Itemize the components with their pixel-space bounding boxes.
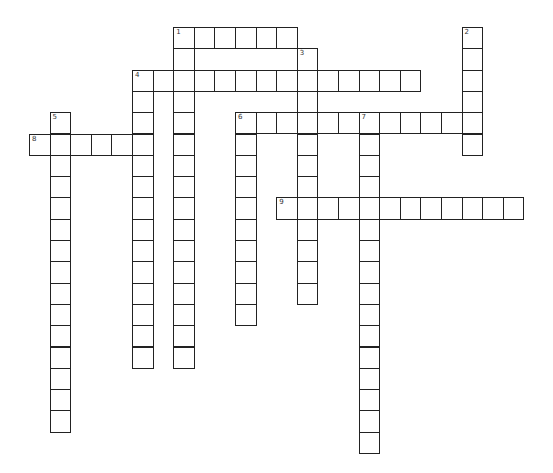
- crossword-cell[interactable]: [173, 283, 195, 305]
- crossword-cell[interactable]: [359, 155, 381, 177]
- crossword-cell[interactable]: [297, 283, 319, 305]
- crossword-cell[interactable]: [173, 261, 195, 283]
- crossword-cell[interactable]: [50, 261, 72, 283]
- crossword-cell[interactable]: [441, 112, 463, 134]
- crossword-cell[interactable]: 3: [297, 48, 319, 70]
- crossword-cell[interactable]: [297, 155, 319, 177]
- crossword-cell[interactable]: [359, 347, 381, 369]
- crossword-cell[interactable]: [132, 240, 154, 262]
- crossword-cell[interactable]: [338, 70, 360, 92]
- crossword-cell[interactable]: [317, 197, 339, 219]
- crossword-cell[interactable]: [173, 219, 195, 241]
- crossword-cell[interactable]: [235, 70, 257, 92]
- crossword-cell[interactable]: [132, 304, 154, 326]
- crossword-cell[interactable]: [359, 432, 381, 454]
- crossword-cell[interactable]: [194, 27, 216, 49]
- crossword-cell[interactable]: [235, 283, 257, 305]
- crossword-cell[interactable]: [359, 70, 381, 92]
- crossword-cell[interactable]: [359, 325, 381, 347]
- crossword-cell[interactable]: [297, 112, 319, 134]
- crossword-cell[interactable]: [214, 27, 236, 49]
- crossword-cell[interactable]: [256, 27, 278, 49]
- crossword-cell[interactable]: [400, 70, 422, 92]
- crossword-cell[interactable]: [276, 27, 298, 49]
- crossword-cell[interactable]: [50, 410, 72, 432]
- crossword-cell[interactable]: [297, 197, 319, 219]
- crossword-cell[interactable]: [132, 347, 154, 369]
- crossword-cell[interactable]: [462, 112, 484, 134]
- crossword-cell[interactable]: 2: [462, 27, 484, 49]
- crossword-cell[interactable]: [214, 70, 236, 92]
- crossword-cell[interactable]: [50, 347, 72, 369]
- crossword-cell[interactable]: [50, 389, 72, 411]
- crossword-cell[interactable]: 6: [235, 112, 257, 134]
- crossword-cell[interactable]: [256, 112, 278, 134]
- crossword-cell[interactable]: [111, 134, 133, 156]
- crossword-cell[interactable]: [50, 368, 72, 390]
- crossword-cell[interactable]: [379, 112, 401, 134]
- crossword-cell[interactable]: [50, 219, 72, 241]
- crossword-cell[interactable]: [235, 304, 257, 326]
- crossword-cell[interactable]: [359, 240, 381, 262]
- crossword-cell[interactable]: [317, 70, 339, 92]
- crossword-cell[interactable]: [297, 219, 319, 241]
- crossword-cell[interactable]: [359, 219, 381, 241]
- crossword-cell[interactable]: 9: [276, 197, 298, 219]
- crossword-cell[interactable]: [297, 134, 319, 156]
- crossword-cell[interactable]: [173, 48, 195, 70]
- crossword-cell[interactable]: [359, 176, 381, 198]
- crossword-cell[interactable]: [359, 197, 381, 219]
- crossword-cell[interactable]: [50, 155, 72, 177]
- crossword-cell[interactable]: [359, 304, 381, 326]
- crossword-cell[interactable]: [132, 112, 154, 134]
- crossword-cell[interactable]: [276, 112, 298, 134]
- crossword-cell[interactable]: [297, 70, 319, 92]
- crossword-cell[interactable]: [173, 325, 195, 347]
- crossword-cell[interactable]: [173, 304, 195, 326]
- crossword-cell[interactable]: [338, 197, 360, 219]
- crossword-cell[interactable]: [132, 283, 154, 305]
- crossword-cell[interactable]: [50, 283, 72, 305]
- crossword-cell[interactable]: [235, 261, 257, 283]
- crossword-cell[interactable]: [70, 134, 92, 156]
- crossword-cell[interactable]: [338, 112, 360, 134]
- crossword-cell[interactable]: [50, 134, 72, 156]
- crossword-cell[interactable]: [482, 197, 504, 219]
- crossword-cell[interactable]: [50, 176, 72, 198]
- crossword-cell[interactable]: [132, 176, 154, 198]
- crossword-cell[interactable]: [235, 219, 257, 241]
- crossword-cell[interactable]: [462, 134, 484, 156]
- crossword-cell[interactable]: [50, 304, 72, 326]
- crossword-cell[interactable]: [173, 70, 195, 92]
- crossword-cell[interactable]: [297, 261, 319, 283]
- crossword-cell[interactable]: [462, 48, 484, 70]
- crossword-cell[interactable]: [441, 197, 463, 219]
- crossword-cell[interactable]: [132, 155, 154, 177]
- crossword-cell[interactable]: [132, 197, 154, 219]
- crossword-cell[interactable]: [132, 261, 154, 283]
- crossword-cell[interactable]: [317, 112, 339, 134]
- crossword-cell[interactable]: [359, 261, 381, 283]
- crossword-cell[interactable]: [173, 112, 195, 134]
- crossword-cell[interactable]: [173, 176, 195, 198]
- crossword-cell[interactable]: [297, 240, 319, 262]
- crossword-cell[interactable]: [173, 197, 195, 219]
- crossword-cell[interactable]: [359, 389, 381, 411]
- crossword-cell[interactable]: [50, 197, 72, 219]
- crossword-cell[interactable]: [359, 134, 381, 156]
- crossword-cell[interactable]: [132, 325, 154, 347]
- crossword-cell[interactable]: [50, 325, 72, 347]
- crossword-cell[interactable]: [462, 70, 484, 92]
- crossword-cell[interactable]: [379, 70, 401, 92]
- crossword-cell[interactable]: [173, 91, 195, 113]
- crossword-cell[interactable]: [359, 283, 381, 305]
- crossword-cell[interactable]: [359, 368, 381, 390]
- crossword-cell[interactable]: [235, 134, 257, 156]
- crossword-cell[interactable]: [173, 240, 195, 262]
- crossword-cell[interactable]: [235, 155, 257, 177]
- crossword-cell[interactable]: [420, 197, 442, 219]
- crossword-cell[interactable]: [194, 70, 216, 92]
- crossword-cell[interactable]: [173, 347, 195, 369]
- crossword-cell[interactable]: 7: [359, 112, 381, 134]
- crossword-cell[interactable]: [235, 27, 257, 49]
